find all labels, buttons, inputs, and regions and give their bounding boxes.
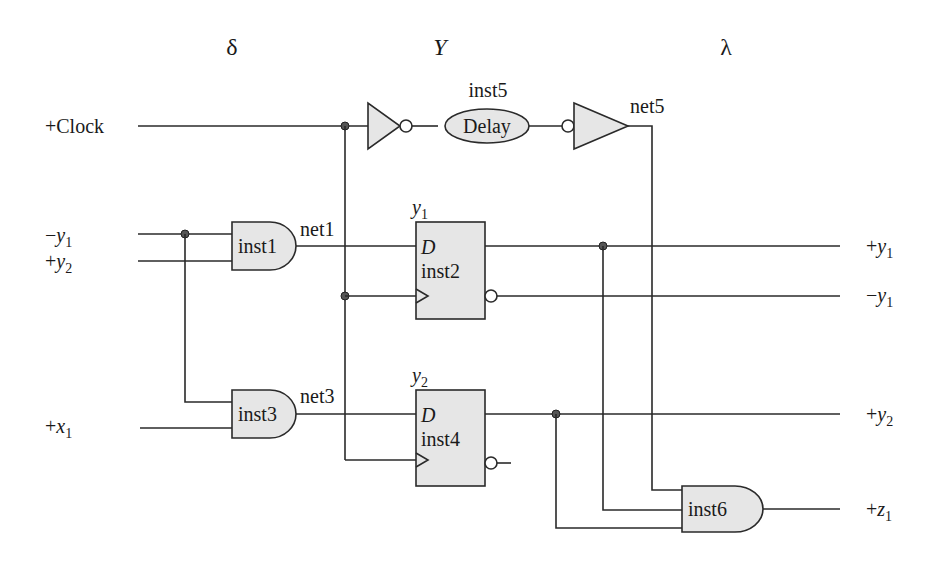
wire-neg-y1-to-inst3 (185, 234, 232, 402)
inst4-label: inst4 (421, 428, 460, 450)
inverter-1 (368, 103, 400, 149)
ff1-d-label: D (420, 236, 436, 258)
inst3-label: inst3 (238, 403, 277, 425)
net1-label: net1 (300, 218, 334, 240)
header-delta: δ (226, 34, 237, 60)
net5-label: net5 (630, 95, 664, 117)
output-pos-z1-label: +z1 (866, 498, 892, 524)
ff2-qbar-bubble (485, 457, 497, 469)
header-lambda: λ (720, 34, 732, 60)
input-clock-label: +Clock (45, 115, 104, 137)
ff1-output-label: y1 (410, 196, 428, 222)
output-neg-y1-label: −y1 (866, 284, 893, 310)
inst5-label: inst5 (469, 79, 508, 101)
ff2-d-label: D (420, 404, 436, 426)
net3-label: net3 (300, 385, 334, 407)
delay-label: Delay (463, 115, 511, 138)
input-pos-x1-label: +x1 (45, 415, 72, 441)
wire-y1-to-inst6 (603, 246, 682, 510)
ff2-output-label: y2 (410, 364, 428, 390)
net5-wire (628, 126, 682, 490)
header-Y: Y (433, 34, 449, 60)
inverter-1-bubble (400, 120, 412, 132)
input-neg-y1-label: −y1 (45, 224, 72, 250)
input-pos-y2-label: +y2 (45, 250, 72, 276)
output-pos-y2-label: +y2 (866, 403, 893, 429)
ff1-qbar-bubble (485, 290, 497, 302)
output-pos-y1-label: +y1 (866, 235, 893, 261)
inst1-label: inst1 (238, 235, 277, 257)
wire-y2-to-inst6 (556, 414, 682, 528)
inverter-2-bubble (562, 120, 574, 132)
inst2-label: inst2 (421, 260, 460, 282)
inst6-label: inst6 (688, 498, 727, 520)
inverter-2 (574, 103, 628, 149)
logic-circuit-diagram: δ Y λ +Clock inst5 Delay net5 −y1 +y2 in… (0, 0, 948, 568)
